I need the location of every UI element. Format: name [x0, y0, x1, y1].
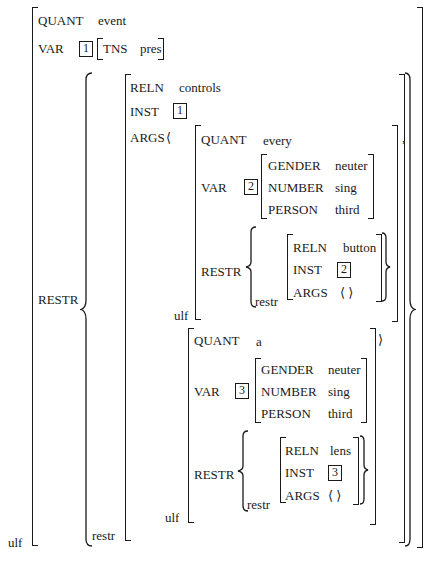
arg2-left-bracket: [188, 328, 194, 523]
controls-args-attr: ARGS: [130, 130, 165, 145]
arg2-ulf-label: ulf: [165, 510, 179, 525]
controls-inst-attr: INST: [130, 104, 159, 119]
arg1-agr-left-bracket: [261, 154, 267, 219]
arg2-restr-close-brace: [359, 435, 369, 505]
arg1-reln-val: button: [343, 240, 376, 255]
outer-left-bracket: [32, 7, 38, 546]
arg2-restr-label: restr: [247, 497, 270, 512]
arg1-gender-attr: GENDER: [268, 158, 321, 173]
arg2-quant-attr: QUANT: [194, 333, 240, 348]
var-tag-1: 1: [79, 41, 93, 57]
var-tag-2: 2: [244, 179, 258, 195]
controls-reln-val: controls: [179, 80, 221, 95]
arg2-right-bracket: [370, 328, 376, 525]
tns-attr: TNS: [103, 41, 128, 56]
var-tag-3: 3: [235, 383, 249, 399]
inst-tag-2: 2: [337, 262, 351, 278]
arg2-number-val: sing: [328, 384, 350, 399]
arg1-number-val: sing: [335, 180, 357, 195]
arg2-number-attr: NUMBER: [261, 384, 317, 399]
arg1-args-val: ⟨ ⟩: [340, 285, 353, 300]
arg1-person-val: third: [335, 202, 360, 217]
arg1-right-bracket: [392, 125, 398, 322]
arg1-restr-attr: RESTR: [201, 264, 241, 279]
arg1-inst-attr: INST: [293, 262, 322, 277]
arg1-person-attr: PERSON: [268, 202, 318, 217]
outer-right-bracket: [417, 7, 423, 548]
args-close-angle: ⟩: [378, 332, 383, 347]
arg1-number-attr: NUMBER: [268, 180, 324, 195]
arg2-gender-attr: GENDER: [261, 362, 314, 377]
arg1-separator: ,: [402, 130, 405, 145]
arg1-restr-label: restr: [255, 294, 278, 309]
tns-right-bracket: [158, 38, 164, 60]
arg2-person-attr: PERSON: [261, 406, 311, 421]
arg2-person-val: third: [328, 406, 353, 421]
arg1-args-attr: ARGS: [293, 285, 328, 300]
controls-restr-label: restr: [92, 528, 115, 543]
arg2-reln-attr: RELN: [285, 443, 319, 458]
arg2-var-attr: VAR: [194, 384, 220, 399]
arg2-reln-val: lens: [330, 443, 351, 458]
controls-reln-attr: RELN: [130, 80, 164, 95]
arg1-ulf-label: ulf: [174, 308, 188, 323]
inst-tag-1: 1: [173, 103, 187, 119]
arg1-reln-attr: RELN: [293, 240, 327, 255]
outer-restr-attr: RESTR: [38, 292, 78, 307]
arg2-gender-val: neuter: [328, 362, 360, 377]
arg1-left-bracket: [195, 125, 201, 320]
arg2-restr-attr: RESTR: [194, 467, 234, 482]
args-open-angle: ⟨: [166, 130, 171, 145]
arg1-restr-close-brace: [381, 232, 391, 302]
arg2-args-attr: ARGS: [285, 488, 320, 503]
outer-var-attr: VAR: [38, 41, 64, 56]
arg2-inst-attr: INST: [285, 465, 314, 480]
arg1-quant-val: every: [263, 133, 292, 148]
arg2-agr-right-bracket: [361, 358, 367, 423]
arg1-gender-val: neuter: [335, 158, 367, 173]
outer-quant-attr: QUANT: [38, 13, 84, 28]
arg1-var-attr: VAR: [201, 180, 227, 195]
outer-restr-open-brace: [80, 72, 94, 547]
arg2-quant-val: a: [256, 334, 262, 349]
inst-tag-3: 3: [328, 465, 342, 481]
arg1-quant-attr: QUANT: [201, 132, 247, 147]
arg1-agr-right-bracket: [368, 154, 374, 219]
outer-quant-val: event: [98, 13, 126, 28]
arg2-args-val: ⟨ ⟩: [328, 488, 341, 503]
outer-ulf-label: ulf: [8, 535, 22, 550]
outer-restr-close-brace: [404, 72, 416, 547]
